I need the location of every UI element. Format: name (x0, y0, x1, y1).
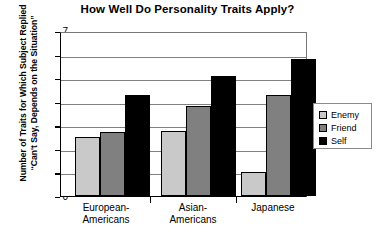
legend-item-enemy: Enemy (319, 108, 371, 121)
gridline-5 (61, 80, 306, 81)
legend-swatch-friend-icon (319, 124, 327, 132)
legend-label-self: Self (331, 136, 347, 146)
legend-item-self: Self (319, 134, 371, 147)
legend-swatch-enemy-icon (319, 111, 327, 119)
gridline-6 (61, 57, 306, 58)
bar-asian-americans-self (211, 76, 236, 196)
bar-european-americans-self (125, 95, 150, 196)
bar-european-americans-friend (100, 132, 125, 196)
x-axis-label-asian-americans: Asian- Americans (151, 202, 235, 225)
plot-area (60, 32, 307, 197)
x-axis-label-japanese: Japanese (238, 202, 308, 214)
chart-title: How Well Do Personality Traits Apply? (45, 3, 330, 15)
legend-swatch-self-icon (319, 137, 327, 145)
bar-asian-americans-friend (186, 106, 211, 196)
legend-item-friend: Friend (319, 121, 371, 134)
bar-japanese-friend (266, 95, 291, 196)
y-tick-mark-0 (55, 197, 60, 198)
legend-label-friend: Friend (331, 123, 357, 133)
x-axis-label-asian-americans-line2: Americans (151, 214, 235, 226)
bar-japanese-enemy (241, 172, 266, 196)
y-axis-title-line1: Number of Traits for Which Subject Repli… (18, 0, 29, 188)
chart-figure: How Well Do Personality Traits Apply? Nu… (0, 0, 379, 238)
bar-european-americans-enemy (75, 137, 100, 196)
bar-asian-americans-enemy (161, 131, 186, 196)
x-axis-label-european-americans-line1: European- (64, 202, 148, 214)
legend-label-enemy: Enemy (331, 110, 359, 120)
x-axis-label-european-americans: European- Americans (64, 202, 148, 225)
x-axis-label-japanese-line1: Japanese (238, 202, 308, 214)
x-axis-separator-2 (236, 197, 237, 203)
x-axis-label-asian-americans-line1: Asian- (151, 202, 235, 214)
x-axis-label-european-americans-line2: Americans (64, 214, 148, 226)
chart-legend: Enemy Friend Self (313, 103, 372, 149)
